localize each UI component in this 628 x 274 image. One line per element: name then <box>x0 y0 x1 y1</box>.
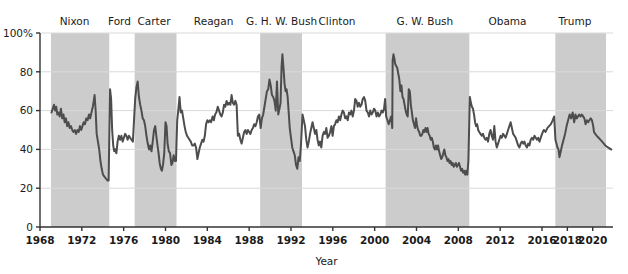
y-tick-label-60: 60 <box>20 104 33 116</box>
x-tick-label-1972: 1972 <box>67 234 96 246</box>
y-tick-label-100: 100% <box>3 27 33 39</box>
presidency-label-clinton: Clinton <box>319 15 356 27</box>
x-tick-label-1996: 1996 <box>318 234 347 246</box>
approval-rating-chart: 020406080100% 19681972197619801984198819… <box>0 0 628 274</box>
x-tick-label-1968: 1968 <box>25 234 54 246</box>
x-tick-label-2012: 2012 <box>486 234 515 246</box>
x-tick-label-1988: 1988 <box>235 234 264 246</box>
y-tick-label-80: 80 <box>20 66 33 78</box>
axis-titles: Year <box>314 255 338 267</box>
presidency-label-nixon: Nixon <box>60 15 90 27</box>
y-tick-label-0: 0 <box>26 221 33 233</box>
presidency-label-g-h-w-bush: G. H. W. Bush <box>246 15 317 27</box>
x-tick-label-2000: 2000 <box>360 234 389 246</box>
x-tick-label-2004: 2004 <box>402 234 431 246</box>
presidency-label-obama: Obama <box>488 15 526 27</box>
x-tick-label-1984: 1984 <box>193 234 222 246</box>
chart-canvas: 020406080100% 19681972197619801984198819… <box>0 0 628 274</box>
presidency-label-g-w-bush: G. W. Bush <box>397 15 454 27</box>
y-tick-label-20: 20 <box>20 182 33 194</box>
presidency-label-trump: Trump <box>558 15 592 27</box>
x-tick-label-2020: 2020 <box>578 234 607 246</box>
presidency-labels: NixonFordCarterReaganG. H. W. BushClinto… <box>60 15 592 27</box>
x-tick-label-1980: 1980 <box>151 234 180 246</box>
y-tick-labels: 020406080100% <box>3 27 33 233</box>
x-tick-label-1992: 1992 <box>276 234 305 246</box>
presidency-label-carter: Carter <box>138 15 172 27</box>
presidency-band-trump <box>555 33 606 227</box>
x-tick-labels: 1968197219761980198419881992199620002004… <box>25 234 607 246</box>
x-tick-label-2008: 2008 <box>444 234 473 246</box>
x-tick-label-1976: 1976 <box>109 234 138 246</box>
presidency-label-ford: Ford <box>108 15 131 27</box>
x-axis-title: Year <box>314 255 338 267</box>
presidency-label-reagan: Reagan <box>194 15 233 27</box>
y-tick-label-40: 40 <box>20 143 33 155</box>
